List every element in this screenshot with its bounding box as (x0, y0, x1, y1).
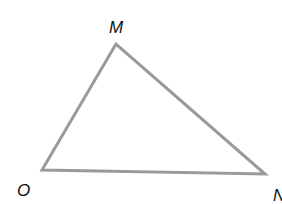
triangle-mon (42, 44, 265, 174)
vertex-label-o: O (17, 181, 30, 200)
triangle-diagram: M O N (0, 0, 282, 204)
vertex-label-n: N (273, 186, 282, 204)
vertex-label-m: M (109, 18, 124, 37)
